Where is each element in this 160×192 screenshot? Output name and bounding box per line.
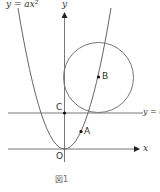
figure-1: y = ax² y x y = 6 O C A B 図1	[0, 0, 160, 192]
x-axis-label: x	[143, 144, 148, 153]
point-c	[63, 111, 66, 114]
parabola-label: y = ax²	[6, 0, 38, 9]
point-b	[97, 75, 100, 78]
origin-label: O	[56, 152, 63, 161]
point-a	[79, 130, 82, 133]
point-a-label: A	[84, 127, 90, 136]
point-c-label: C	[56, 103, 62, 112]
figure-caption: 図1	[55, 176, 68, 184]
diagram-canvas	[0, 0, 160, 192]
point-b-label: B	[102, 72, 108, 81]
y-axis-label: y	[62, 0, 67, 9]
line-label: y = 6	[143, 108, 160, 116]
